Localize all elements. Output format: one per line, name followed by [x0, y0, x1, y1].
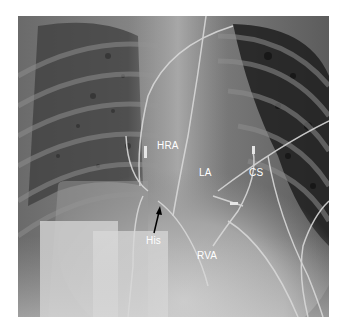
- xray-image: HRA LA CS His RVA: [18, 16, 329, 317]
- label-la: LA: [199, 168, 212, 178]
- label-hra: HRA: [157, 141, 179, 151]
- label-rva: RVA: [197, 251, 217, 261]
- label-cs: CS: [249, 168, 263, 178]
- xray-drawing: [18, 16, 329, 317]
- label-his: His: [146, 236, 161, 246]
